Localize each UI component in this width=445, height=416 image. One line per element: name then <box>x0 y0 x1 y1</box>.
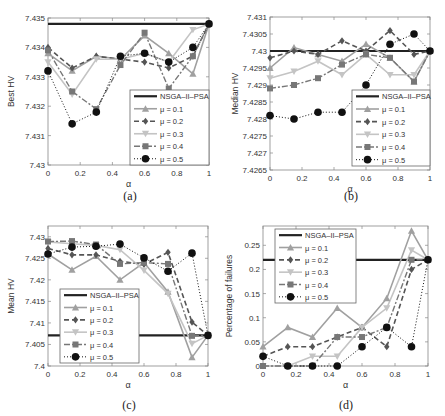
legend-entry-label: μ = 0.4 <box>382 143 405 152</box>
legend: NSGA–II–PSAμ = 0.1μ = 0.2μ = 0.3μ = 0.4μ… <box>275 229 356 303</box>
legend-entry-label: NSGA–II–PSA <box>382 92 431 101</box>
x-tick-label: 0 <box>46 169 51 178</box>
legend: NSGA–II–PSAμ = 0.1μ = 0.2μ = 0.3μ = 0.4μ… <box>352 90 431 166</box>
square-marker-icon <box>409 257 415 263</box>
circle-marker-icon <box>408 343 416 351</box>
circle-marker-icon <box>259 353 267 361</box>
chart-a: 00.20.40.60.817.437.4317.4327.4337.4347.… <box>6 14 213 189</box>
legend: NSGA–II–PSAμ = 0.1μ = 0.2μ = 0.3μ = 0.4μ… <box>130 90 209 165</box>
x-tick-label: 0.2 <box>74 370 86 379</box>
y-tick-label: 7.425 <box>25 254 46 263</box>
x-axis-label: α <box>126 179 131 189</box>
y-tick-label: 0.2 <box>249 265 261 274</box>
y-axis-label: Median HV <box>230 72 240 114</box>
legend-entry-label: μ = 0.5 <box>382 156 405 165</box>
legend-entry-label: μ = 0.4 <box>305 281 328 290</box>
legend-entry-label: μ = 0.5 <box>90 353 113 362</box>
y-tick-label: 7.431 <box>247 13 268 22</box>
circle-marker-icon <box>205 20 213 28</box>
x-tick-label: 0.4 <box>323 370 335 379</box>
circle-marker-icon <box>333 362 341 370</box>
y-tick-label: 7.428 <box>247 115 268 124</box>
square-marker-icon <box>411 79 417 85</box>
square-marker-icon <box>190 53 196 59</box>
caption-c: (c) <box>109 398 149 413</box>
x-tick-label: 0.2 <box>290 370 302 379</box>
square-marker-icon <box>69 89 75 95</box>
circle-marker-icon <box>287 293 295 301</box>
chart-c: 00.20.40.60.817.47.4057.417.4157.427.425… <box>6 226 212 390</box>
x-tick-label: 0.2 <box>75 169 87 178</box>
circle-marker-icon <box>117 52 125 60</box>
x-tick-label: 0.6 <box>360 174 372 183</box>
x-tick-label: 0.8 <box>389 370 401 379</box>
square-marker-icon <box>365 144 371 150</box>
x-tick-label: 0.4 <box>328 174 340 183</box>
square-marker-icon <box>142 30 148 36</box>
circle-marker-icon <box>93 108 101 116</box>
circle-marker-icon <box>204 332 212 340</box>
y-tick-label: 7.429 <box>247 81 268 90</box>
square-marker-icon <box>45 239 51 245</box>
circle-marker-icon <box>189 44 197 52</box>
legend-entry-label: μ = 0.1 <box>90 304 113 313</box>
x-axis-label: α <box>125 380 130 390</box>
square-marker-icon <box>73 342 79 348</box>
chart-d: 00.20.40.60.8100.050.10.150.20.25αPercen… <box>224 226 432 390</box>
caption-a: (a) <box>110 189 150 204</box>
legend-entry-label: μ = 0.2 <box>305 256 328 265</box>
square-marker-icon <box>387 55 393 61</box>
circle-marker-icon <box>410 30 418 38</box>
square-marker-icon <box>334 334 340 340</box>
figure-2x2-line-charts: 00.20.40.60.817.437.4317.4327.4337.4347.… <box>0 0 445 416</box>
x-tick-label: 1 <box>428 174 433 183</box>
circle-marker-icon <box>309 362 317 370</box>
y-tick-label: 7.4295 <box>243 64 268 73</box>
square-marker-icon <box>288 282 294 288</box>
legend-entry-label: μ = 0.3 <box>160 130 183 139</box>
y-tick-label: 7.433 <box>25 73 46 82</box>
square-marker-icon <box>189 333 195 339</box>
legend-entry-label: μ = 0.1 <box>305 244 328 253</box>
y-tick-label: 7.4265 <box>243 166 268 175</box>
legend-entry-label: μ = 0.3 <box>305 268 328 277</box>
square-marker-icon <box>315 75 321 81</box>
x-tick-label: 0.4 <box>107 169 119 178</box>
circle-marker-icon <box>383 324 391 332</box>
circle-marker-icon <box>290 115 298 123</box>
y-tick-label: 7.4275 <box>243 132 268 141</box>
x-tick-label: 1 <box>207 169 212 178</box>
circle-marker-icon <box>386 40 394 48</box>
x-tick-label: 1 <box>206 370 211 379</box>
y-axis-label: Best HV <box>6 76 16 108</box>
circle-marker-icon <box>141 49 149 57</box>
legend-entry-label: NSGA–II–PSA <box>305 231 354 240</box>
y-axis-label: Percentage of failures <box>224 255 234 338</box>
legend-entry-label: μ = 0.2 <box>160 117 183 126</box>
square-marker-icon <box>359 334 365 340</box>
x-tick-label: 0.6 <box>139 169 151 178</box>
circle-marker-icon <box>116 240 124 248</box>
y-tick-label: 7.42 <box>29 276 45 285</box>
circle-marker-icon <box>266 112 274 120</box>
plots-canvas: 00.20.40.60.817.437.4317.4327.4337.4347.… <box>0 0 445 416</box>
y-tick-label: 7.4285 <box>243 98 268 107</box>
y-tick-label: 7.435 <box>25 14 46 23</box>
y-tick-label: 7.427 <box>247 149 268 158</box>
x-tick-label: 0.6 <box>356 370 368 379</box>
x-tick-label: 0.8 <box>392 174 404 183</box>
y-tick-label: 7.431 <box>25 132 46 141</box>
y-tick-label: 7.405 <box>25 340 46 349</box>
square-marker-icon <box>69 238 75 244</box>
y-tick-label: 7.4 <box>34 362 46 371</box>
square-marker-icon <box>291 82 297 88</box>
circle-marker-icon <box>314 108 322 116</box>
circle-marker-icon <box>142 155 150 163</box>
circle-marker-icon <box>188 249 196 257</box>
x-tick-label: 0.8 <box>171 169 183 178</box>
circle-marker-icon <box>72 353 80 361</box>
circle-marker-icon <box>44 250 52 258</box>
circle-marker-icon <box>424 256 432 264</box>
legend-entry-label: μ = 0.1 <box>160 105 183 114</box>
y-tick-label: 7.43 <box>29 233 45 242</box>
